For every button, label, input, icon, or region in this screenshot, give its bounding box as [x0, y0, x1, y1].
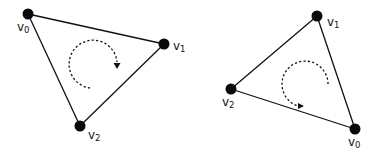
edge-v1-v2 [80, 44, 164, 126]
vertex-v2 [226, 84, 237, 95]
label-v0: v0 [17, 20, 30, 35]
edge-v2-v0 [231, 89, 355, 129]
winding-order-diagram: v0 v1 v2 v0 v1 v2 [0, 0, 377, 155]
triangle-right: v0 v1 v2 [222, 11, 361, 151]
edge-v2-v0 [28, 14, 80, 126]
counterclockwise-arc [282, 61, 328, 106]
label-v1: v1 [327, 15, 340, 30]
arrowhead-icon [114, 63, 121, 69]
label-v1: v1 [173, 39, 186, 54]
vertex-v0 [350, 124, 361, 135]
label-v0: v0 [348, 135, 361, 150]
clockwise-arc [69, 40, 117, 88]
label-v2: v2 [222, 95, 235, 110]
edge-v1-v2 [231, 16, 317, 89]
arrowhead-icon [298, 103, 304, 109]
vertex-v2 [75, 121, 86, 132]
vertex-v1 [312, 11, 323, 22]
vertex-v0 [23, 9, 34, 20]
edge-v0-v1 [317, 16, 355, 129]
vertex-v1 [159, 39, 170, 50]
triangle-left: v0 v1 v2 [17, 9, 186, 144]
label-v2: v2 [88, 128, 101, 143]
edge-v0-v1 [28, 14, 164, 44]
